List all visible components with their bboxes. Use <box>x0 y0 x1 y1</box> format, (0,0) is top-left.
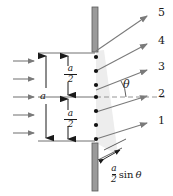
half-width-label-lower: a 2 <box>64 109 77 130</box>
source-point <box>94 69 98 73</box>
ray-label-3: 3 <box>158 61 165 72</box>
single-slit-diffraction-figure: 5 4 3 2 1 a a 2 a 2 θ a 2 sin θ <box>0 0 173 196</box>
half-width-label-upper: a 2 <box>64 64 77 85</box>
sin-function-label: sin <box>119 169 134 180</box>
path-difference-denominator: 2 <box>111 175 117 184</box>
path-difference-fraction: a 2 <box>111 164 117 185</box>
ray-label-4: 4 <box>158 35 165 46</box>
diffracted-ray-5 <box>96 16 147 51</box>
source-point <box>94 95 98 99</box>
barrier-lower <box>92 143 98 191</box>
slit-width-label: a <box>40 91 46 101</box>
ray-label-5: 5 <box>158 7 165 18</box>
source-point <box>94 137 98 141</box>
ray-label-2: 2 <box>158 88 165 99</box>
path-difference-theta: θ <box>136 169 142 180</box>
theta-label: θ <box>123 79 130 90</box>
path-difference-label: a 2 sin θ <box>111 164 142 185</box>
incident-plane-wave-arrows <box>13 61 34 133</box>
source-point <box>94 123 98 127</box>
ray-label-1: 1 <box>158 115 165 126</box>
half-width-numerator-lower: a <box>64 109 77 118</box>
source-point <box>94 55 98 59</box>
half-width-numerator-upper: a <box>64 64 77 73</box>
half-width-denominator-lower: 2 <box>64 120 77 129</box>
source-point <box>94 109 98 113</box>
half-width-denominator-upper: 2 <box>64 75 77 84</box>
source-point <box>94 83 98 87</box>
figure-canvas <box>0 0 173 196</box>
barrier-upper <box>92 7 98 52</box>
path-difference-numerator: a <box>111 164 117 173</box>
